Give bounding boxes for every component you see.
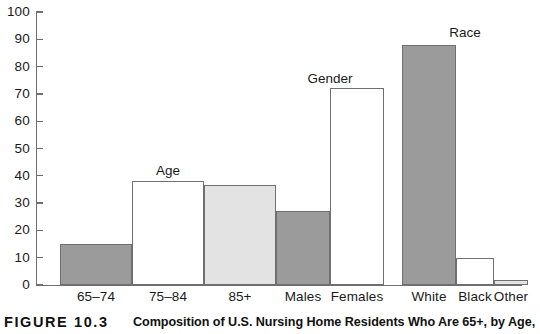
bar-females [330, 88, 384, 285]
figure-number: FIGURE 10.3 [4, 314, 109, 330]
bar-75-84 [132, 181, 204, 285]
bar-other [494, 280, 528, 285]
figure-caption-text: Composition of U.S. Nursing Home Residen… [133, 315, 535, 329]
bar-65-74 [60, 244, 132, 285]
bars-layer [0, 0, 528, 285]
bar-black [456, 258, 494, 285]
bar-white [402, 45, 456, 285]
bar-85- [204, 185, 276, 285]
group-title-gender: Gender [276, 71, 384, 86]
x-label-other: Other [480, 289, 540, 304]
bar-males [276, 211, 330, 285]
group-title-age: Age [60, 163, 276, 178]
figure-caption: FIGURE 10.3 Composition of U.S. Nursing … [0, 312, 528, 334]
x-label-females: Females [316, 289, 398, 304]
group-title-race: Race [402, 25, 528, 40]
bar-chart-plot: 1009080706050403020100 65–7475–8485+Male… [0, 0, 528, 310]
